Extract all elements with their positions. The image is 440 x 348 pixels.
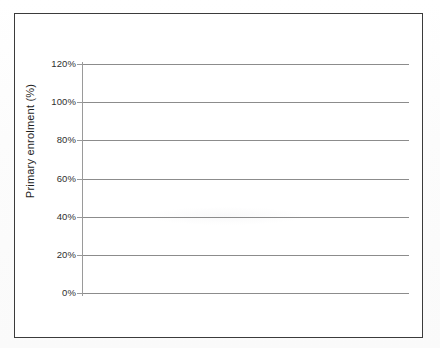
gridline-40 bbox=[82, 217, 409, 218]
gridline-100 bbox=[82, 102, 409, 103]
gridline-120 bbox=[82, 64, 409, 65]
y-tick-mark-120 bbox=[77, 64, 82, 65]
y-tick-mark-20 bbox=[77, 255, 82, 256]
y-tick-mark-0 bbox=[77, 293, 82, 294]
y-tick-mark-100 bbox=[77, 102, 82, 103]
y-axis-title: Primary enrolment (%) bbox=[24, 41, 36, 241]
chart-screenshot: 120% 100% 80% 60% 40% 20% 0% Primary enr… bbox=[0, 0, 440, 348]
gridline-20 bbox=[82, 255, 409, 256]
gridline-60 bbox=[82, 179, 409, 180]
gridline-80 bbox=[82, 140, 409, 141]
y-tick-mark-40 bbox=[77, 217, 82, 218]
y-axis-line bbox=[82, 62, 83, 296]
y-tick-label-20: 20% bbox=[16, 250, 76, 260]
y-axis-tick-labels: 120% 100% 80% 60% 40% 20% 0% bbox=[12, 0, 76, 348]
y-tick-mark-60 bbox=[77, 179, 82, 180]
y-tick-mark-80 bbox=[77, 140, 82, 141]
plot-area bbox=[82, 64, 409, 293]
gridline-0 bbox=[82, 293, 409, 294]
y-tick-label-0: 0% bbox=[16, 288, 76, 298]
